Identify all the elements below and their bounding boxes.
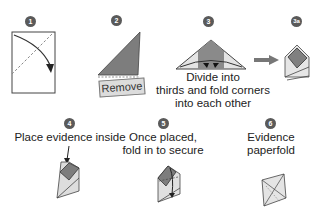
step-3-fold-illustration [174,38,248,72]
step-6-caption-line-1: Evidence [240,131,302,144]
step-5-badge: 5 [158,118,169,129]
step-2-triangle-illustration [96,30,144,80]
step-5-caption-line-2: fold in to secure [118,144,208,157]
step-3-caption: Divide into thirds and fold corners into… [170,71,256,110]
right-arrow-icon [254,55,280,65]
step-6-finished-fold-illustration [260,172,288,208]
step-3-caption-line-2: thirds and fold corners [150,84,276,97]
step-5-caption: Once placed, fold in to secure [118,131,208,157]
step-6-caption: Evidence paperfold [240,131,302,157]
step-3-caption-line-1: Divide into [170,71,256,84]
step-3a-envelope-illustration [283,43,311,83]
step-6-badge: 6 [265,118,276,129]
step-4-envelope-illustration [55,146,85,202]
step-5-envelope-illustration [156,164,186,206]
step-5-caption-line-1: Once placed, [118,131,208,144]
step-4-badge: 4 [64,118,75,129]
step-6-caption-line-2: paperfold [240,144,302,157]
step-2-badge: 2 [111,15,122,26]
remove-strip-label: Remove [98,77,145,97]
step-3a-badge: 3a [291,16,302,27]
step-3-caption-line-3: into each other [170,97,256,110]
step-1-sheet-illustration [11,31,57,95]
step-1-badge: 1 [25,16,36,27]
step-4-caption: Place evidence inside [10,131,130,144]
step-3-badge: 3 [203,16,214,27]
